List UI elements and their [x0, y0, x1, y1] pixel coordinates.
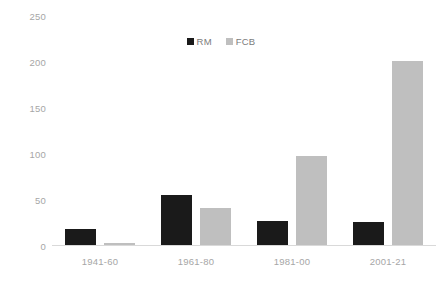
bar-rm	[257, 221, 288, 246]
bar-chart: 050100150200250 RMFCB 1941-601961-801981…	[0, 0, 442, 282]
bar-group	[52, 16, 148, 246]
bar-group-bars	[340, 16, 436, 246]
x-axis-tick-label: 1961-80	[148, 256, 244, 267]
bar-group	[148, 16, 244, 246]
bar-group-bars	[148, 16, 244, 246]
x-axis-tick-label: 2001-21	[340, 256, 436, 267]
y-axis-tick-label: 0	[41, 241, 46, 252]
y-axis-tick-label: 50	[35, 195, 46, 206]
x-axis-tick-label: 1941-60	[52, 256, 148, 267]
y-axis-tick-label: 150	[30, 103, 46, 114]
x-axis: 1941-601961-801981-002001-21	[52, 256, 436, 267]
bar-rm	[65, 229, 96, 246]
y-axis-tick-label: 100	[30, 149, 46, 160]
bar-rm	[353, 222, 384, 246]
y-axis: 050100150200250	[0, 0, 52, 282]
bar-group	[340, 16, 436, 246]
bar-rm	[161, 195, 192, 246]
bar-fcb	[392, 61, 423, 246]
axis-baseline	[52, 245, 436, 246]
y-axis-tick-label: 250	[30, 11, 46, 22]
bar-groups	[52, 16, 436, 246]
y-axis-tick-label: 200	[30, 57, 46, 68]
plot-area	[52, 16, 436, 246]
bar-fcb	[296, 156, 327, 246]
bar-group-bars	[52, 16, 148, 246]
bar-group-bars	[244, 16, 340, 246]
bar-group	[244, 16, 340, 246]
bar-fcb	[200, 208, 231, 246]
x-axis-tick-label: 1981-00	[244, 256, 340, 267]
